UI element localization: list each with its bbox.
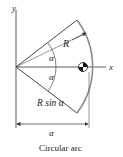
y-axis-label: y bbox=[11, 3, 16, 13]
x-axis-label: x bbox=[108, 62, 113, 72]
lower-angle-label: α bbox=[49, 72, 54, 82]
circular-arc-diagram: y x R α α R sin α α Circular arc bbox=[0, 0, 123, 157]
dimension-sub-label: α bbox=[49, 128, 54, 138]
radius-label: R bbox=[62, 38, 69, 49]
radius-r-arrow bbox=[72, 33, 86, 40]
centroid-icon bbox=[79, 63, 88, 72]
upper-angle-label: α bbox=[49, 53, 54, 63]
caption: Circular arc bbox=[39, 143, 82, 153]
dimension-label: R sin α bbox=[36, 98, 65, 108]
